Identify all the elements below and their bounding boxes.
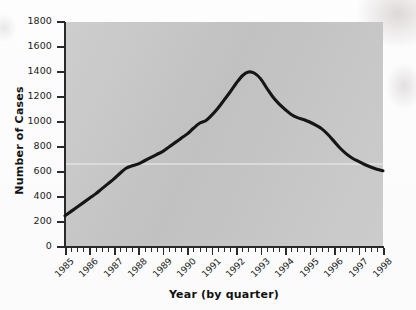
series-line-number-of-cases (65, 72, 383, 216)
series-layer (0, 0, 416, 310)
line-chart-figure: 020040060080010001200140016001800 198519… (0, 0, 416, 310)
